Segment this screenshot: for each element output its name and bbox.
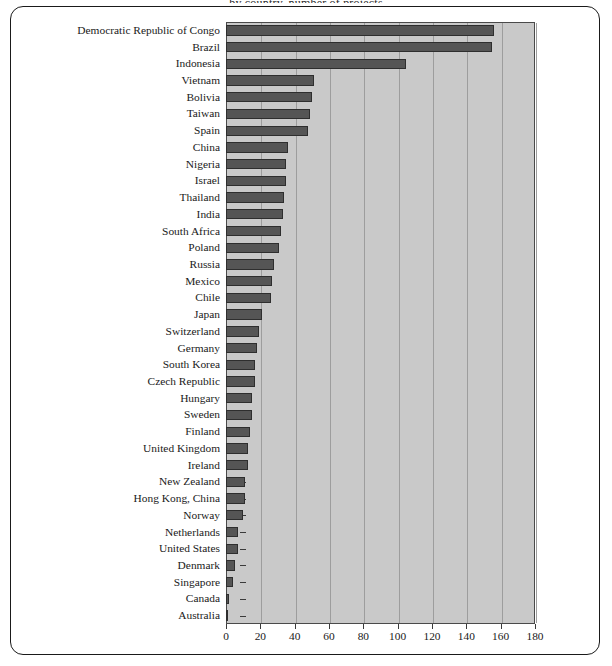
y-axis-tick-label: Australia bbox=[178, 609, 220, 621]
y-axis-tick-label: Germany bbox=[178, 342, 220, 354]
y-axis-tick-label: Switzerland bbox=[166, 325, 220, 337]
bar bbox=[226, 192, 284, 202]
y-axis-tick-label: New Zealand bbox=[159, 475, 220, 487]
bar bbox=[226, 510, 243, 520]
x-axis-tick-label: 160 bbox=[492, 630, 509, 642]
y-axis-tick-label: Hungary bbox=[180, 392, 220, 404]
y-axis-labels: Democratic Republic of CongoBrazilIndone… bbox=[20, 22, 220, 624]
x-axis-tick-label: 140 bbox=[458, 630, 475, 642]
bar bbox=[226, 259, 274, 269]
x-axis-tick bbox=[295, 624, 296, 629]
y-axis-tick-label: South Africa bbox=[162, 225, 220, 237]
y-axis-tick-label: Indonesia bbox=[176, 57, 220, 69]
chart-figure: by country, number of projects Democrati… bbox=[0, 0, 612, 666]
y-axis-tick-label: Brazil bbox=[192, 41, 220, 53]
bar bbox=[226, 560, 235, 570]
y-axis-tick-label: United Kingdom bbox=[143, 442, 220, 454]
x-axis-tick-label: 20 bbox=[255, 630, 266, 642]
x-axis-tick bbox=[535, 624, 536, 629]
y-axis-tick-label: Vietnam bbox=[181, 74, 220, 86]
bar bbox=[226, 443, 248, 453]
bar bbox=[226, 159, 286, 169]
y-axis-tick-label: South Korea bbox=[163, 358, 220, 370]
x-axis-tick-label: 40 bbox=[289, 630, 300, 642]
y-axis-tick-label: Chile bbox=[195, 291, 220, 303]
chart-title-fragment: by country, number of projects bbox=[0, 0, 612, 3]
y-axis-tick-label: Czech Republic bbox=[148, 375, 220, 387]
gridline bbox=[536, 23, 537, 623]
x-axis-tick bbox=[466, 624, 467, 629]
bar bbox=[226, 544, 238, 554]
bar bbox=[226, 176, 286, 186]
y-axis-tick-label: Singapore bbox=[174, 576, 220, 588]
y-axis-tick-label: Israel bbox=[195, 174, 220, 186]
y-axis-tick-label: Democratic Republic of Congo bbox=[77, 24, 220, 36]
x-axis-tick bbox=[329, 624, 330, 629]
y-axis-tick-label: Poland bbox=[188, 241, 220, 253]
x-axis-tick bbox=[260, 624, 261, 629]
x-axis-tick bbox=[226, 624, 227, 629]
bar bbox=[226, 527, 238, 537]
x-axis-tick bbox=[363, 624, 364, 629]
bar bbox=[226, 243, 279, 253]
bar bbox=[226, 142, 288, 152]
bar bbox=[226, 410, 252, 420]
bar bbox=[226, 59, 406, 69]
bar bbox=[226, 594, 229, 604]
bar bbox=[226, 577, 233, 587]
y-axis-tick-label: Spain bbox=[194, 124, 220, 136]
x-axis-tick bbox=[501, 624, 502, 629]
x-axis-tick-label: 0 bbox=[223, 630, 229, 642]
bar bbox=[226, 92, 312, 102]
bar bbox=[226, 75, 314, 85]
bar bbox=[226, 427, 250, 437]
bar bbox=[226, 226, 281, 236]
x-axis: 020406080100120140160180 bbox=[226, 624, 535, 650]
bar bbox=[226, 493, 245, 503]
bar bbox=[226, 209, 283, 219]
y-axis-tick-label: Finland bbox=[185, 425, 220, 437]
bar bbox=[226, 393, 252, 403]
x-axis-tick-label: 100 bbox=[389, 630, 406, 642]
y-axis-tick-label: Sweden bbox=[184, 408, 220, 420]
y-axis-tick-label: Hong Kong, China bbox=[134, 492, 220, 504]
y-axis-tick-label: Thailand bbox=[180, 191, 221, 203]
bar bbox=[226, 326, 259, 336]
x-axis-tick-label: 120 bbox=[423, 630, 440, 642]
bar bbox=[226, 460, 248, 470]
bar bbox=[226, 126, 308, 136]
x-axis-tick bbox=[398, 624, 399, 629]
y-axis-tick-label: Ireland bbox=[188, 459, 220, 471]
bar bbox=[226, 309, 262, 319]
y-axis-tick-label: Nigeria bbox=[186, 158, 220, 170]
x-axis-tick-label: 80 bbox=[358, 630, 369, 642]
bar bbox=[226, 276, 272, 286]
bar bbox=[226, 293, 271, 303]
bar-series bbox=[226, 22, 535, 624]
y-axis-tick-label: Japan bbox=[194, 308, 220, 320]
y-axis-tick-label: China bbox=[193, 141, 220, 153]
x-axis-tick-label: 60 bbox=[323, 630, 334, 642]
y-axis-tick-label: Netherlands bbox=[165, 526, 220, 538]
bar bbox=[226, 477, 245, 487]
y-axis-tick-label: United States bbox=[159, 542, 220, 554]
y-axis-tick-label: Russia bbox=[190, 258, 220, 270]
bar bbox=[226, 343, 257, 353]
x-axis-tick-label: 180 bbox=[526, 630, 543, 642]
y-axis-tick-label: Norway bbox=[183, 509, 220, 521]
bar bbox=[226, 42, 492, 52]
y-axis-tick-label: Mexico bbox=[185, 275, 220, 287]
bar bbox=[226, 109, 310, 119]
bar bbox=[226, 360, 255, 370]
y-axis-tick-label: Bolivia bbox=[186, 91, 220, 103]
y-axis-tick-label: Canada bbox=[186, 592, 220, 604]
y-axis-tick-label: Taiwan bbox=[187, 107, 220, 119]
y-axis-tick-label: India bbox=[197, 208, 220, 220]
bar bbox=[226, 25, 494, 35]
bar bbox=[226, 376, 255, 386]
y-axis-tick-label: Denmark bbox=[178, 559, 220, 571]
bar bbox=[226, 610, 228, 620]
x-axis-tick bbox=[432, 624, 433, 629]
